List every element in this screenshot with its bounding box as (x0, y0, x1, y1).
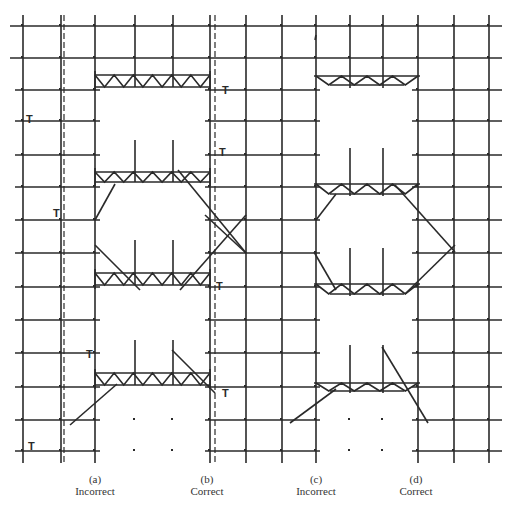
coupler-node (21, 185, 23, 187)
coupler-node (280, 285, 282, 287)
coupler-node (487, 119, 489, 121)
coupler-node (280, 153, 282, 155)
coupler-node (244, 24, 246, 26)
coupler-node (244, 318, 246, 320)
coupler-node (381, 449, 383, 451)
coupler-node (244, 185, 246, 187)
coupler-node (208, 251, 210, 253)
coupler-node (314, 351, 316, 353)
truss-a-mid-web (95, 172, 210, 182)
brace (95, 245, 140, 290)
coupler-node (244, 418, 246, 420)
coupler-node (314, 251, 316, 253)
coupler-node (93, 351, 95, 353)
coupler-node (21, 418, 23, 420)
coupler-node (208, 385, 210, 387)
panel-a-letter: (a) (50, 473, 140, 485)
coupler-node (208, 418, 210, 420)
tie-marker: T (28, 440, 35, 452)
coupler-node (93, 449, 95, 451)
coupler-node (208, 24, 210, 26)
coupler-node (416, 418, 418, 420)
coupler-node (133, 56, 135, 58)
coupler-node (452, 56, 454, 58)
coupler-node (416, 56, 418, 58)
coupler-node (208, 285, 210, 287)
tie-marker: T (216, 280, 223, 292)
panel-d-verdict: Correct (371, 485, 461, 497)
panel-c-verdict: Incorrect (271, 485, 361, 497)
coupler-node (21, 24, 23, 26)
coupler-node (487, 318, 489, 320)
truss-b-bottom-web (95, 373, 210, 385)
coupler-node (314, 119, 316, 121)
coupler-node (381, 418, 383, 420)
coupler-node (487, 418, 489, 420)
coupler-node (314, 88, 316, 90)
truss-d-mid-web (316, 284, 418, 294)
coupler-node (487, 153, 489, 155)
coupler-node (21, 351, 23, 353)
coupler-node (280, 24, 282, 26)
diagonal-braces (70, 35, 455, 425)
coupler-node (171, 449, 173, 451)
brace (290, 389, 336, 423)
coupler-node (280, 418, 282, 420)
coupler-node (244, 285, 246, 287)
coupler-node (244, 351, 246, 353)
coupler-node (21, 88, 23, 90)
coupler-node (452, 24, 454, 26)
coupler-node (280, 218, 282, 220)
coupler-node (93, 24, 95, 26)
coupler-node (59, 218, 61, 220)
coupler-node (416, 351, 418, 353)
panel-d-letter: (d) (371, 473, 461, 485)
coupler-node (348, 449, 350, 451)
coupler-node (21, 251, 23, 253)
coupler-node (452, 318, 454, 320)
coupler-node (452, 385, 454, 387)
coupler-node (487, 88, 489, 90)
coupler-node (171, 24, 173, 26)
coupler-node (244, 119, 246, 121)
coupler-node (171, 418, 173, 420)
coupler-node (314, 449, 316, 451)
coupler-node (314, 385, 316, 387)
truss-c-top-web (316, 76, 418, 85)
coupler-node (452, 153, 454, 155)
tie-marker: T (86, 348, 93, 360)
coupler-node (416, 449, 418, 451)
coupler-node (93, 153, 95, 155)
tie-marker: T (26, 113, 33, 125)
coupler-node (133, 418, 135, 420)
coupler-node (314, 285, 316, 287)
brace (178, 170, 246, 253)
coupler-node (21, 119, 23, 121)
coupler-node (280, 351, 282, 353)
coupler-node (93, 418, 95, 420)
coupler-node (208, 119, 210, 121)
panel-b-verdict: Correct (162, 485, 252, 497)
coupler-node (59, 251, 61, 253)
coupler-node (348, 56, 350, 58)
coupler-node (348, 24, 350, 26)
coupler-node (59, 56, 61, 58)
coupler-node (452, 119, 454, 121)
coupler-node (208, 56, 210, 58)
coupler-node (59, 351, 61, 353)
coupler-node (93, 385, 95, 387)
coupler-node (452, 251, 454, 253)
coupler-node (487, 251, 489, 253)
coupler-node (452, 351, 454, 353)
coupler-node (133, 24, 135, 26)
coupler-node (487, 351, 489, 353)
coupler-node (244, 385, 246, 387)
coupler-node (93, 318, 95, 320)
coupler-node (487, 385, 489, 387)
coupler-node (314, 24, 316, 26)
coupler-node (244, 56, 246, 58)
coupler-node (244, 153, 246, 155)
coupler-node (59, 318, 61, 320)
coupler-node (59, 449, 61, 451)
coupler-node (280, 119, 282, 121)
